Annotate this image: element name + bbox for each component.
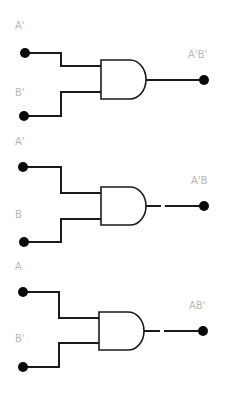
gate-1-input-a-wire [25, 53, 101, 66]
gate-1-input-b-terminal [19, 111, 29, 121]
gate-3-input-b-wire [23, 343, 99, 367]
gate-2-output-terminal [199, 201, 209, 211]
gate-3-input-b-terminal [18, 362, 28, 372]
gate-1-output-label: A'B' [188, 49, 207, 60]
gate-2-input-b-terminal [19, 237, 29, 247]
gate-3-output-terminal [198, 326, 208, 336]
gate-2-input-b-wire [24, 219, 101, 242]
gate-3-input-b-label: B' [15, 333, 25, 344]
logic-diagram: A' B' A'B' A' B A'B A B' AB' [0, 0, 225, 401]
and-gate-1-group: A' B' A'B' [15, 20, 209, 121]
and-gate-2-icon [101, 187, 146, 225]
gate-2-input-a-wire [23, 167, 101, 193]
and-gate-3-group: A B' AB' [15, 261, 208, 372]
gate-3-output-label: AB' [189, 300, 205, 311]
gate-2-input-b-label: B [15, 209, 22, 220]
gate-1-output-terminal [199, 75, 209, 85]
and-gate-1-icon [101, 60, 146, 99]
gate-2-input-a-label: A' [15, 136, 25, 147]
gate-2-input-a-terminal [18, 162, 28, 172]
gate-2-output-label: A'B [191, 175, 208, 186]
gate-1-input-b-label: B' [15, 87, 25, 98]
gate-3-input-a-terminal [18, 287, 28, 297]
and-gate-2-group: A' B A'B [15, 136, 209, 247]
gate-1-input-a-terminal [20, 48, 30, 58]
gate-1-input-a-label: A' [15, 20, 25, 31]
gate-1-input-b-wire [24, 92, 101, 116]
and-gate-3-icon [99, 312, 144, 350]
gate-3-input-a-wire [23, 292, 99, 318]
gate-3-input-a-label: A [15, 261, 22, 272]
